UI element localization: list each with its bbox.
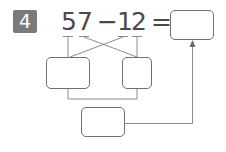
digit-ones-minuend: 7 bbox=[77, 8, 93, 36]
equals-sign: = bbox=[151, 8, 172, 36]
problem-number-badge: 4 bbox=[13, 10, 37, 33]
arrow-up-icon bbox=[190, 40, 196, 47]
bottom-partial-box[interactable] bbox=[81, 107, 125, 137]
left-partial-box[interactable] bbox=[46, 57, 90, 89]
minus-sign: − bbox=[97, 8, 118, 36]
answer-box[interactable] bbox=[170, 10, 214, 40]
digit-ones-subtrahend: 2 bbox=[131, 8, 147, 36]
digit-tens-minuend: 5 bbox=[61, 8, 77, 36]
right-partial-box[interactable] bbox=[122, 57, 152, 89]
